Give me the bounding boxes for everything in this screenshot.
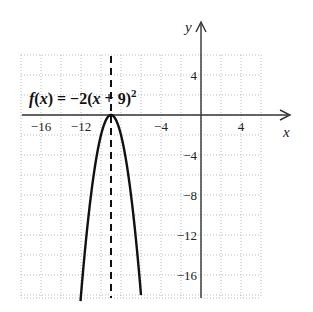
- x-axis-label: x: [282, 124, 290, 140]
- function-label: f(x) = −2(x + 9)2: [29, 87, 137, 108]
- y-tick-label: −16: [177, 268, 198, 283]
- x-tick-label: −12: [71, 119, 91, 134]
- x-tick-label: −16: [31, 119, 52, 134]
- x-tick-label: 4: [238, 119, 245, 134]
- function-var2: x: [92, 90, 101, 107]
- y-tick-label: −4: [183, 148, 197, 163]
- function-rest: + 9): [101, 90, 131, 108]
- y-tick-label: −12: [177, 228, 197, 243]
- function-var: x: [39, 90, 48, 107]
- y-tick-label: 4: [191, 68, 198, 83]
- x-tick-label: −4: [154, 119, 168, 134]
- axes: [22, 22, 290, 298]
- chart: −16−12−444−4−8−12−16 y x f(x) = −2(x + 9…: [0, 0, 313, 312]
- y-axis-label: y: [183, 19, 192, 35]
- y-tick-label: −8: [183, 188, 197, 203]
- function-eq: = −2(: [53, 90, 93, 108]
- function-exp: 2: [131, 87, 137, 99]
